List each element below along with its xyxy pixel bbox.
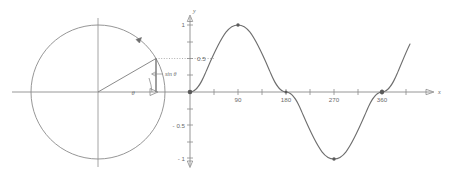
rotation-direction-arrow-icon [136,38,142,44]
point-90deg [236,23,239,26]
x-tick-label-360: 360 [377,96,388,103]
unit-circle-group: θ sin θ [12,18,192,167]
y-axis-label: y [192,7,196,14]
figure-canvas: θ sin θ [0,0,455,175]
y-tick-label-neg-1: - 1 [178,155,186,162]
x-tick-label-270: 270 [329,96,340,103]
angle-arc [149,78,152,92]
point-180deg [285,91,288,94]
point-0deg [188,90,193,95]
x-tick-label-90: 90 [235,96,242,103]
sine-unit-circle-figure: θ sin θ [0,0,455,175]
angle-theta-label: θ [131,89,135,96]
y-tick-label-1: 1 [182,21,186,28]
radius-line [98,59,156,93]
point-270deg [332,157,335,160]
x-axis-label: x [437,88,441,95]
point-360deg [380,90,385,95]
x-tick-label-180: 180 [281,96,292,103]
sin-theta-label: sin θ [165,71,177,77]
y-tick-label-0-5: 0.5 [197,55,206,62]
y-tick-label-neg-0-5: - 0.5 [173,122,186,129]
sine-plot-group: y x 1 0.5 - 0.5 - 1 90 180 270 360 [173,7,441,168]
